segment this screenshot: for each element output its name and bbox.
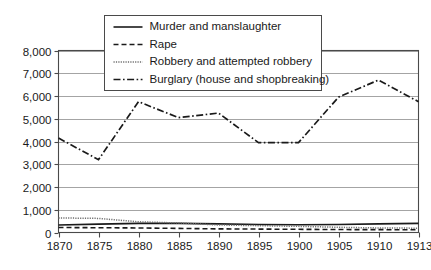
x-tick-label: 1910: [367, 240, 393, 252]
x-tick-label: 1890: [207, 240, 233, 252]
y-axis-tick-labels: 01,0002,0003,0004,0005,0006,0007,0008,00…: [23, 46, 52, 240]
x-tick-label: 1900: [287, 240, 313, 252]
y-tick-label: 2,000: [23, 182, 52, 194]
x-tick-label: 1870: [47, 240, 73, 252]
y-tick-label: 8,000: [23, 46, 52, 58]
x-tick-label: 1880: [127, 240, 153, 252]
chart-canvas: 01,0002,0003,0004,0005,0006,0007,0008,00…: [0, 0, 431, 270]
y-tick-label: 1,000: [23, 205, 52, 217]
legend-label: Rape: [150, 38, 178, 50]
y-tick-label: 5,000: [23, 114, 52, 126]
legend-label: Murder and manslaughter: [150, 20, 282, 32]
y-tick-label: 7,000: [23, 68, 52, 80]
legend-label: Burglary (house and shopbreaking): [150, 73, 330, 85]
y-axis-tick-marks: [55, 52, 59, 234]
y-tick-label: 6,000: [23, 91, 52, 103]
chart-legend: Murder and manslaughterRapeRobbery and a…: [105, 16, 330, 91]
y-tick-label: 4,000: [23, 137, 52, 149]
y-tick-label: 0: [45, 228, 51, 240]
line-chart: 01,0002,0003,0004,0005,0006,0007,0008,00…: [0, 0, 431, 270]
x-tick-label: 1913: [407, 240, 431, 252]
x-tick-label: 1895: [247, 240, 273, 252]
series-line: [59, 228, 419, 230]
x-tick-label: 1885: [167, 240, 193, 252]
x-axis-tick-labels: 1870187518801885189018951900190519101913: [47, 240, 431, 252]
x-tick-label: 1905: [327, 240, 353, 252]
legend-label: Robbery and attempted robbery: [150, 55, 313, 67]
y-tick-label: 3,000: [23, 159, 52, 171]
x-tick-label: 1875: [87, 240, 113, 252]
series-group: [59, 80, 419, 230]
x-axis-tick-marks: [60, 233, 420, 238]
